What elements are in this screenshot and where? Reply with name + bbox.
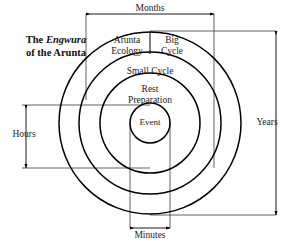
figure-title-italic: Engwura xyxy=(46,34,86,45)
figure-title-prefix: The xyxy=(26,34,46,45)
figure-title-line2: of the Arunta xyxy=(26,47,86,58)
ring-inner xyxy=(130,103,170,143)
figure-title: The Engwura of the Arunta xyxy=(8,33,104,59)
diagram-page: The Engwura of the Arunta Arunta Ecology… xyxy=(0,0,290,246)
ring-third xyxy=(100,73,200,173)
